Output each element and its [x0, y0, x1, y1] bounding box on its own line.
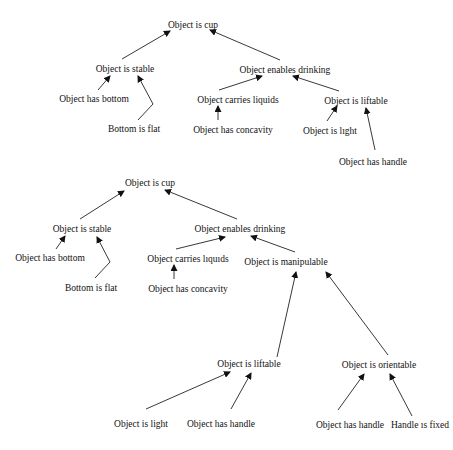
node-object-is-liftable: Object is liftable	[324, 96, 387, 106]
arrow-edge	[98, 76, 110, 90]
node-object-is-light: Object is light	[114, 419, 168, 429]
arrow-edge	[210, 30, 280, 60]
node-object-has-bottom: Object has bottom	[15, 253, 85, 263]
node-object-carries-liquids: Object carries lıquıds	[147, 254, 229, 264]
arrow-edge	[165, 190, 237, 219]
node-handle-is-fixed: Handle ıs fixed	[391, 420, 449, 430]
arrow-edge	[326, 272, 388, 355]
node-object-is-orientable: Object is orientable	[342, 360, 416, 370]
node-bottom-is-flat: Bottom is flat	[108, 124, 161, 134]
node-object-is-manipulable: Object is manipulable	[244, 257, 327, 267]
arrow-edge	[251, 236, 295, 252]
arrow-edge	[56, 236, 65, 249]
node-object-is-stable: Object is stable	[96, 64, 155, 74]
node-object-is-cup: Object is cup	[125, 178, 175, 188]
node-object-carries-liquids: Object carries liquids	[197, 95, 279, 105]
arrow-edge	[327, 106, 337, 121]
arrow-edge	[338, 374, 364, 410]
node-object-is-cup: Object is cup	[168, 20, 218, 30]
arrow-edge	[80, 191, 124, 219]
node-object-has-bottom: Object has bottom	[59, 94, 129, 104]
arrow-edge	[95, 237, 110, 278]
arrow-edge	[122, 31, 170, 59]
node-bottom-is-flat: Bottom is flat	[65, 283, 118, 293]
node-object-has-concavity: Object has concavity	[148, 284, 228, 294]
node-object-has-handle-2: Object has handle	[316, 420, 384, 430]
arrow-edge	[231, 373, 251, 409]
tree-1: Object is cup Object is stable Object ha…	[59, 20, 407, 167]
arrow-edge	[176, 237, 225, 249]
node-object-has-handle: Object has handle	[187, 419, 255, 429]
node-object-is-liftable: Object is liftable	[217, 359, 280, 369]
arrow-edge	[146, 372, 230, 409]
arrow-edge	[390, 374, 412, 416]
node-object-is-stable: Object is stable	[53, 224, 112, 234]
arrow-edge	[277, 272, 296, 357]
causal-tree-diagram: Object is cup Object is stable Object ha…	[0, 0, 453, 450]
node-object-has-handle: Object has handle	[339, 157, 407, 167]
arrow-edge	[138, 76, 153, 120]
node-object-enables-drinking: Object enables drinking	[240, 65, 331, 75]
node-object-enables-drinking: Object enables drinking	[195, 224, 286, 234]
node-object-has-concavity: Object has concavity	[193, 125, 273, 135]
arrow-edge	[219, 76, 262, 90]
arrow-edge	[293, 76, 339, 91]
arrow-edge	[366, 108, 375, 150]
node-object-is-light: Object is lıght	[303, 126, 357, 136]
tree-2: Object is cup Object is stable Object ha…	[15, 178, 449, 430]
